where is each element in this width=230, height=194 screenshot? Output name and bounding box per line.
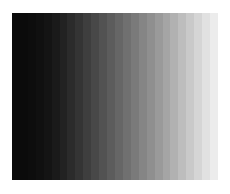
- gray-band: [20, 13, 28, 180]
- gray-band: [147, 13, 155, 180]
- gray-band: [91, 13, 99, 180]
- gray-band: [83, 13, 91, 180]
- gray-band: [99, 13, 107, 180]
- gray-band: [186, 13, 194, 180]
- gray-band: [75, 13, 83, 180]
- gray-band: [67, 13, 75, 180]
- gray-band: [131, 13, 139, 180]
- gray-band: [178, 13, 186, 180]
- gray-band: [123, 13, 131, 180]
- grayscale-step-wedge: [12, 13, 218, 180]
- gray-band: [202, 13, 210, 180]
- gray-band: [210, 13, 218, 180]
- gray-band: [36, 13, 44, 180]
- gray-band: [163, 13, 171, 180]
- gray-band: [107, 13, 115, 180]
- gray-band: [194, 13, 202, 180]
- gray-band: [115, 13, 123, 180]
- gray-band: [12, 13, 20, 180]
- gray-band: [44, 13, 52, 180]
- gray-band: [52, 13, 60, 180]
- gray-band: [139, 13, 147, 180]
- gray-band: [170, 13, 178, 180]
- gray-band: [60, 13, 68, 180]
- gray-band: [28, 13, 36, 180]
- gray-band: [155, 13, 163, 180]
